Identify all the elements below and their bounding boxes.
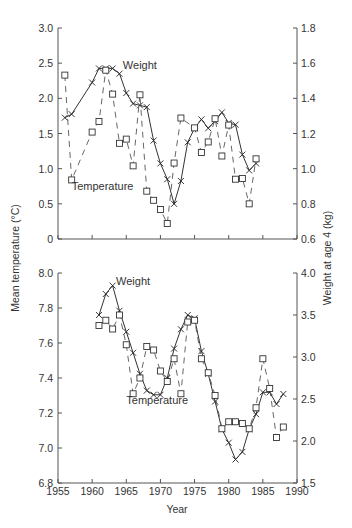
y-axis-title-right: Weight at age 4 (kg) (321, 211, 333, 305)
weight-point-marker (274, 401, 280, 407)
y-tick-label-right: 3.5 (301, 309, 316, 321)
y-tick-label-left: 3.0 (38, 22, 53, 34)
temperature-point-marker (96, 119, 102, 125)
temperature-point-marker (110, 326, 116, 332)
temperature-point-marker (103, 317, 109, 323)
weight-point-marker (130, 350, 136, 356)
x-tick-label: 1965 (115, 485, 139, 497)
y-tick-label-right: 4.0 (301, 267, 316, 279)
temperature-point-marker (246, 426, 252, 432)
temperature-point-marker (226, 122, 232, 128)
temperature-point-marker (253, 156, 259, 162)
weight-point-marker (233, 456, 239, 462)
y-tick-label-right: 2.0 (301, 435, 316, 447)
temperature-point-marker (198, 356, 204, 362)
temperature-point-marker (233, 176, 239, 182)
temperature-point-marker (280, 424, 286, 430)
weight-point-marker (144, 388, 150, 394)
temperature-point-marker (123, 136, 129, 142)
x-tick-label: 1980 (217, 485, 241, 497)
temperature-point-marker (219, 426, 225, 432)
temperature-point-marker (103, 67, 109, 73)
y-axis-title-left: Mean temperature (°C) (9, 204, 21, 312)
temperature-point-marker (89, 129, 95, 135)
temperature-point-marker (96, 323, 102, 329)
temperature-point-marker (274, 435, 280, 441)
x-tick-label: 1960 (80, 485, 104, 497)
top-panel: 00.51.01.52.02.53.00.60.81.01.21.41.61.8… (38, 22, 315, 245)
y-tick-label-right: 1.2 (301, 128, 316, 140)
y-tick-label-left: 7.4 (38, 372, 53, 384)
temperature-point-marker (137, 92, 143, 98)
temperature-point-marker (212, 116, 218, 122)
temperature-point-marker (239, 421, 245, 427)
weight-point-marker (123, 90, 129, 96)
temperature-point-marker (151, 347, 157, 353)
temperature-annotation: Temperature (126, 394, 188, 406)
weight-point-marker (164, 176, 170, 182)
y-tick-label-right: 1.0 (301, 163, 316, 175)
temperature-series-line (65, 70, 256, 223)
weight-annotation: Weight (123, 59, 157, 71)
y-tick-label-left: 7.2 (38, 407, 53, 419)
y-tick-label-left: 1.0 (38, 163, 53, 175)
temperature-point-marker (246, 201, 252, 207)
y-tick-label-right: 0.8 (301, 198, 316, 210)
temperature-point-marker (144, 344, 150, 350)
weight-annotation: Weight (116, 275, 150, 287)
weight-point-marker (89, 80, 95, 86)
temperature-point-marker (219, 153, 225, 159)
temperature-point-marker (192, 317, 198, 323)
weight-point-marker (198, 116, 204, 122)
weight-point-marker (96, 312, 102, 318)
temperature-point-marker (212, 393, 218, 399)
x-tick-label: 1985 (251, 485, 275, 497)
weight-series-line (99, 286, 283, 460)
x-tick-label: 1975 (183, 485, 207, 497)
weight-point-marker (226, 440, 232, 446)
temperature-annotation: Temperature (72, 180, 134, 192)
weight-point-marker (69, 111, 75, 117)
weight-point-marker (185, 312, 191, 318)
temperature-point-marker (233, 419, 239, 425)
temperature-point-marker (185, 319, 191, 325)
temperature-point-marker (164, 379, 170, 385)
y-tick-label-right: 2.5 (301, 393, 316, 405)
temperature-point-marker (239, 176, 245, 182)
weight-point-marker (116, 71, 122, 77)
y-tick-label-right: 1.4 (301, 92, 316, 104)
weight-point-marker (123, 329, 129, 335)
temperature-point-marker (205, 139, 211, 145)
temperature-point-marker (110, 91, 116, 97)
temperature-point-marker (151, 197, 157, 203)
bottom-panel: 195519601965197019751980198519906.87.07.… (38, 267, 315, 497)
y-tick-label-right: 1.8 (301, 22, 316, 34)
weight-point-marker (103, 291, 109, 297)
y-tick-label-left: 7.0 (38, 442, 53, 454)
x-axis-title: Year (166, 503, 188, 515)
weight-point-marker (246, 167, 252, 173)
temperature-point-marker (260, 356, 266, 362)
y-tick-label-left: 2.5 (38, 57, 53, 69)
weight-point-marker (239, 449, 245, 455)
y-tick-label-left: 8.0 (38, 267, 53, 279)
temperature-point-marker (171, 160, 177, 166)
y-tick-label-right: 1.5 (301, 477, 316, 489)
temperature-point-marker (171, 356, 177, 362)
temperature-point-marker (253, 405, 259, 411)
temperature-point-marker (198, 149, 204, 155)
temperature-point-marker (267, 386, 273, 392)
weight-point-marker (130, 101, 136, 107)
y-tick-label-left: 7.6 (38, 337, 53, 349)
weight-point-marker (280, 391, 286, 397)
weight-point-marker (205, 125, 211, 131)
temperature-point-marker (116, 140, 122, 146)
temperature-point-marker (157, 368, 163, 374)
y-tick-label-left: 0.5 (38, 198, 53, 210)
weight-point-marker (157, 160, 163, 166)
weight-point-marker (219, 109, 225, 115)
temperature-point-marker (205, 370, 211, 376)
weight-point-marker (62, 115, 68, 121)
temperature-point-marker (226, 419, 232, 425)
temperature-point-marker (116, 312, 122, 318)
